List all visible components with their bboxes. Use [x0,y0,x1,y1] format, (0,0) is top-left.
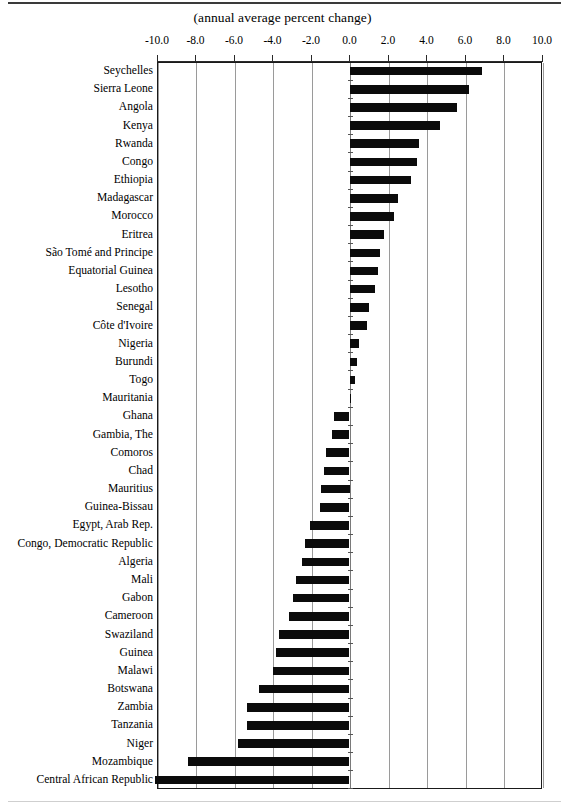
x-axis-tick-label: -6.0 [212,34,256,46]
bar [350,139,419,148]
category-label: Congo, Democratic Republic [17,536,153,552]
chart-subtitle: (annual average percent change) [0,10,565,26]
chart-row: Congo [0,153,565,171]
category-label: Mauritius [108,481,153,497]
x-axis-tick-label: -2.0 [289,34,333,46]
x-axis-tick [388,55,389,62]
bar [293,594,350,603]
category-label: Gambia, The [93,427,153,443]
chart-row: Nigeria [0,335,565,353]
chart-row: Angola [0,98,565,116]
category-label: Eritrea [121,227,153,243]
chart-row: Rwanda [0,135,565,153]
bar [276,648,349,657]
category-label: Tanzania [111,717,153,733]
chart-row: Mozambique [0,753,565,771]
category-label: Gabon [122,590,153,606]
bar [188,757,350,766]
x-axis-tick [272,55,273,62]
bar [334,412,349,421]
category-label: Botswana [107,681,153,697]
x-axis-tick-label: -8.0 [174,34,218,46]
bar [350,194,398,203]
category-label: Guinea-Bissau [85,499,153,515]
category-label: Algeria [118,554,153,570]
bar [320,503,350,512]
chart-row: Equatorial Guinea [0,262,565,280]
chart-row: Egypt, Arab Rep. [0,516,565,534]
category-label: Ethiopia [114,172,153,188]
category-label: Mauritania [102,390,153,406]
category-label: Morocco [111,208,153,224]
x-axis-tick [157,55,158,62]
x-axis-tick [234,55,235,62]
bar [350,212,394,221]
bar [350,158,417,167]
chart-row: Guinea-Bissau [0,498,565,516]
category-label: Cameroon [105,608,153,624]
category-label: Burundi [115,354,153,370]
chart-row: Sierra Leone [0,80,565,98]
category-label: Madagascar [97,190,153,206]
x-axis-tick-label: 2.0 [366,34,410,46]
bar [350,339,360,348]
chart-row: Côte d'Ivoire [0,316,565,334]
chart-row: Niger [0,734,565,752]
bar [350,394,352,403]
category-label: Lesotho [116,281,153,297]
bar [326,448,349,457]
bar [324,467,350,476]
bar [247,721,349,730]
category-label: Zambia [118,699,153,715]
category-label: Togo [129,372,153,388]
x-axis-tick [311,55,312,62]
bar [350,267,379,276]
category-label: Mali [131,572,153,588]
chart-row: Mauritania [0,389,565,407]
bar [238,739,350,748]
page-top-rule [8,2,561,4]
category-label: Equatorial Guinea [68,263,153,279]
zero-axis-stub [348,788,353,789]
category-label: Egypt, Arab Rep. [73,517,154,533]
bar [350,249,381,258]
category-label: Nigeria [118,336,153,352]
bar [350,121,440,130]
category-label: Angola [119,99,153,115]
chart-row: Congo, Democratic Republic [0,535,565,553]
bar [350,176,412,185]
chart-row: Malawi [0,662,565,680]
x-axis-tick [426,55,427,62]
bar [350,285,375,294]
x-axis-tick [349,55,350,62]
bar [350,67,483,76]
chart-row: Central African Republic [0,771,565,789]
bar [259,685,349,694]
category-label: Central African Republic [36,772,153,788]
bar [332,430,349,439]
category-label: São Tomé and Principe [46,245,154,261]
x-axis-tick-labels: -10.0-8.0-6.0-4.0-2.00.02.04.06.08.010.0 [0,34,565,52]
bar [296,576,350,585]
category-label: Malawi [118,663,153,679]
x-axis-tick [503,55,504,62]
chart-row: Senegal [0,298,565,316]
chart-row: Guinea [0,644,565,662]
category-label: Sierra Leone [93,81,153,97]
x-axis-tick-label: 8.0 [482,34,526,46]
category-label: Chad [129,463,153,479]
category-label: Niger [127,736,153,752]
bar [310,521,349,530]
bar [289,612,350,621]
chart-row: Zambia [0,698,565,716]
chart-row: Lesotho [0,280,565,298]
chart-row: São Tomé and Principe [0,244,565,262]
chart-row: Mauritius [0,480,565,498]
chart-row: Mali [0,571,565,589]
x-axis-tick-label: 6.0 [443,34,487,46]
category-label: Swaziland [105,627,153,643]
bar [305,539,349,548]
chart-row: Gambia, The [0,426,565,444]
bar [350,303,369,312]
bar [247,703,349,712]
